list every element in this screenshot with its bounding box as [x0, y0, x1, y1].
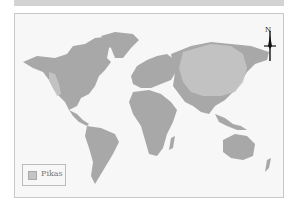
legend: Pikas: [22, 164, 66, 186]
continent-south-america: [85, 126, 119, 184]
continent-north-america: [23, 36, 119, 110]
island-madagascar: [169, 136, 175, 150]
legend-label-pikas: Pikas: [41, 169, 63, 178]
continent-europe: [131, 54, 177, 88]
map-panel: N Pikas: [14, 13, 284, 198]
north-label: N: [265, 26, 271, 34]
legend-swatch-pikas: [28, 171, 37, 180]
island-new-zealand: [265, 158, 271, 172]
top-banner: [14, 0, 284, 6]
pikas-range-asia: [179, 44, 247, 96]
continent-australia: [223, 134, 255, 160]
islands-southeast-asia: [215, 114, 247, 130]
continent-central-america: [69, 110, 89, 126]
